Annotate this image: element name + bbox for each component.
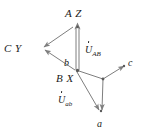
- phasor-subscript-upper: AB: [92, 50, 101, 58]
- phasor-subscript-lower: ab: [65, 100, 72, 108]
- vector-center-to-c: [103, 66, 124, 79]
- label-terminal-cy: C Y: [4, 43, 22, 54]
- junction-dot-bx: [76, 69, 79, 72]
- phasor-diagram-figure: A Z C Y B X b a c U AB U ab: [0, 0, 141, 140]
- label-terminal-b: b: [64, 58, 70, 68]
- label-terminal-bx: B X: [56, 73, 74, 84]
- vector-bx-to-a: [77, 72, 99, 110]
- vector-bx-to-az: [74, 23, 80, 71]
- dot-accent-icon: [88, 41, 90, 43]
- junction-dot-az: [76, 26, 78, 28]
- junction-dot-center: [102, 78, 105, 81]
- u-with-dot-accent-lower: U: [58, 95, 65, 105]
- junction-dot-c: [123, 65, 125, 67]
- u-with-dot-accent-upper: U: [85, 45, 92, 55]
- vector-bx-to-cy: [45, 50, 75, 70]
- junction-dot-a: [100, 110, 102, 112]
- phasor-u-glyph-upper: U: [85, 44, 92, 55]
- vector-az-to-cy: [44, 27, 73, 47]
- dot-accent-icon: [61, 91, 63, 93]
- label-terminal-a: a: [97, 119, 103, 129]
- label-phasor-u-ab-upper: U AB: [85, 45, 101, 58]
- vector-bx-to-center: [79, 71, 103, 79]
- label-phasor-u-ab-lower: U ab: [58, 95, 72, 108]
- vector-center-to-a: [102, 79, 103, 110]
- label-terminal-c: c: [128, 58, 133, 68]
- label-terminal-az: A Z: [65, 8, 82, 19]
- vector-diagram-canvas: [0, 0, 141, 140]
- phasor-u-glyph-lower: U: [58, 94, 65, 105]
